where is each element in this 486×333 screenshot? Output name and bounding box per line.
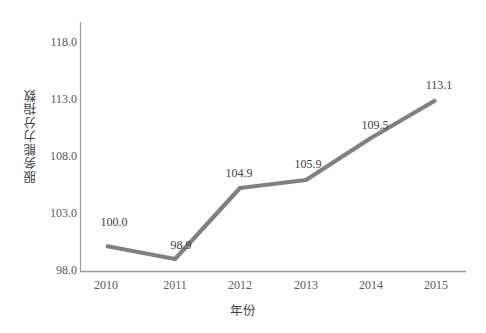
x-tick-label-2012: 2012 <box>205 278 275 293</box>
data-label-2014: 109.5 <box>340 118 410 133</box>
x-tick-label-2013: 2013 <box>271 278 341 293</box>
data-label-2015: 113.1 <box>404 78 474 93</box>
x-tick-label-2014: 2014 <box>336 278 406 293</box>
x-tick-label-2015: 2015 <box>401 278 471 293</box>
line-chart: 服务能力分指数 118.0 113.0 108.0 103.0 98.0 201… <box>0 0 486 333</box>
x-tick-label-2011: 2011 <box>140 278 210 293</box>
x-axis-title: 年份 <box>0 300 486 319</box>
data-label-2012: 104.9 <box>204 166 274 181</box>
data-label-2013: 105.9 <box>273 157 343 172</box>
x-tick-label-2010: 2010 <box>71 278 141 293</box>
data-label-2010: 100.0 <box>79 215 149 230</box>
data-label-2011: 98.9 <box>146 238 216 253</box>
